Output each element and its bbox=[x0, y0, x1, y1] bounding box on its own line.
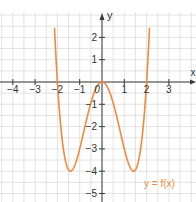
grid bbox=[0, 12, 196, 202]
x-axis-arrow-icon bbox=[190, 80, 196, 85]
x-axis-label: x bbox=[191, 67, 196, 78]
x-tick-label: −1 bbox=[74, 84, 86, 95]
y-tick-label: −5 bbox=[86, 188, 98, 199]
y-tick-label: 1 bbox=[91, 54, 97, 65]
y-tick-label: −3 bbox=[86, 143, 98, 154]
function-label: y = f(x) bbox=[144, 178, 175, 189]
y-tick-label: −4 bbox=[86, 166, 98, 177]
axes bbox=[0, 13, 196, 202]
y-tick-label: −1 bbox=[86, 99, 98, 110]
y-axis-arrow-icon bbox=[100, 13, 105, 20]
x-tick-label: 1 bbox=[122, 84, 128, 95]
y-tick-label: −2 bbox=[86, 121, 98, 132]
y-axis-label: y bbox=[107, 9, 113, 21]
x-tick-label: −4 bbox=[7, 84, 19, 95]
function-graph: −4−3−2−1012321−1−2−3−4−5xyy = f(x) bbox=[0, 0, 196, 202]
y-tick-label: 2 bbox=[91, 32, 97, 43]
x-tick-label: 2 bbox=[144, 84, 150, 95]
x-tick-label: −3 bbox=[29, 84, 41, 95]
x-tick-label: −2 bbox=[52, 84, 64, 95]
x-tick-label: 3 bbox=[166, 84, 172, 95]
x-tick-label: 0 bbox=[94, 84, 100, 95]
